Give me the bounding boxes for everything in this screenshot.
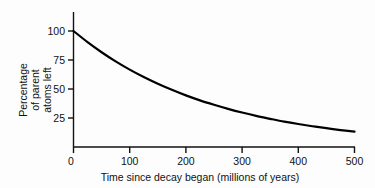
x-tick-label-0: 0 xyxy=(68,155,74,167)
x-tick-label-400: 400 xyxy=(290,155,308,167)
x-tick-label-500: 500 xyxy=(346,155,364,167)
y-axis-title-line-2: of parent xyxy=(29,69,41,111)
x-tick-label-100: 100 xyxy=(121,155,139,167)
y-tick-label-75: 75 xyxy=(53,54,65,66)
decay-curve-line xyxy=(74,31,355,132)
y-axis-title-line-1: Percentage xyxy=(17,63,29,117)
y-tick-label-50: 50 xyxy=(53,83,65,95)
decay-curve-chart: 100 75 50 25 0 100 200 300 400 500 Time … xyxy=(0,0,375,188)
chart-canvas: 100 75 50 25 0 100 200 300 400 500 Time … xyxy=(0,0,375,188)
y-axis-title-line-3: atoms left xyxy=(41,67,53,113)
x-tick-label-200: 200 xyxy=(177,155,195,167)
x-tick-label-300: 300 xyxy=(233,155,251,167)
x-axis-title: Time since decay began (millions of year… xyxy=(101,171,300,183)
y-tick-label-100: 100 xyxy=(47,25,65,37)
y-tick-label-25: 25 xyxy=(53,112,65,124)
